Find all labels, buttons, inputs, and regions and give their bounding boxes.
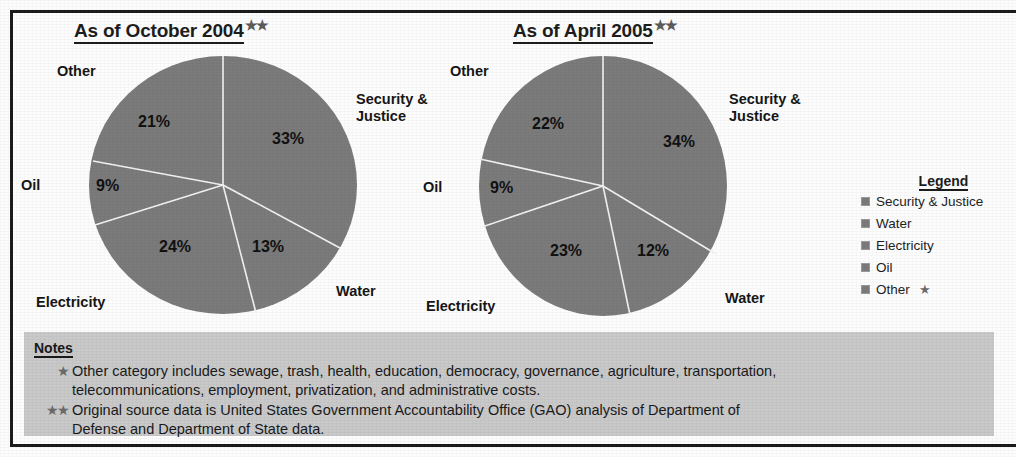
single-star-marker-icon: ★: [34, 362, 68, 381]
pie2-label-security-line2: Justice: [729, 108, 779, 124]
pie2-label-electricity: Electricity: [426, 298, 495, 315]
note-text-line2: telecommunications, employment, privatiz…: [72, 381, 984, 399]
chart-title-text-2: As of April 2005: [513, 20, 653, 44]
legend-label: Oil: [876, 260, 893, 275]
legend-item-water[interactable]: Water: [861, 216, 1016, 231]
pie2-percent-electricity: 23%: [550, 242, 582, 260]
notes-panel: Notes ★ Other category includes sewage, …: [24, 332, 994, 436]
note-text-line2: Defense and Department of State data.: [72, 420, 984, 438]
pie2-percent-other: 22%: [532, 115, 564, 133]
note-text-line1: Original source data is United States Go…: [72, 402, 740, 418]
pie1-label-electricity: Electricity: [36, 294, 105, 311]
legend-title: Legend: [861, 173, 1016, 189]
pie1-percent-water: 13%: [252, 238, 284, 256]
note-text: Original source data is United States Go…: [72, 401, 984, 438]
pie2-percent-oil: 9%: [490, 179, 513, 197]
double-star-marker-icon-note: ★★: [34, 401, 68, 420]
legend-label: Security & Justice: [876, 194, 983, 209]
charts-area: As of October 2004★★: [13, 13, 1016, 318]
pie1-label-other: Other: [57, 63, 96, 80]
double-star-marker-icon-2: ★★: [654, 17, 676, 33]
pie2-label-oil: Oil: [423, 179, 442, 196]
legend-item-security-justice[interactable]: Security & Justice: [861, 194, 1016, 209]
pie1-percent-oil: 9%: [96, 177, 119, 195]
chart-title-text: As of October 2004: [74, 20, 244, 44]
legend: Legend Security & Justice Water Electric…: [861, 173, 1016, 304]
pie2-label-security-line1: Security &: [729, 91, 801, 107]
pie1-label-security-justice: Security &Justice: [356, 91, 446, 124]
pie2-label-other: Other: [450, 63, 489, 80]
chart-title-october-2004: As of October 2004★★: [74, 17, 267, 42]
legend-item-electricity[interactable]: Electricity: [861, 238, 1016, 253]
pie1-label-security-line1: Security &: [356, 91, 428, 107]
legend-label: Other: [876, 282, 910, 297]
legend-swatch-icon: [861, 219, 870, 228]
star-marker-icon: ★: [919, 282, 931, 297]
pie1-label-security-line2: Justice: [356, 108, 406, 124]
legend-label: Electricity: [876, 238, 934, 253]
pie2-label-water: Water: [725, 290, 765, 307]
pie-chart-april-2005: [478, 55, 728, 317]
scanned-figure-page: As of October 2004★★: [0, 0, 1016, 457]
pie1-percent-electricity: 24%: [159, 238, 191, 256]
legend-label: Water: [876, 216, 912, 231]
notes-heading: Notes: [34, 341, 73, 358]
pie-graphic: [88, 55, 358, 315]
pie2-percent-security: 34%: [663, 133, 695, 151]
legend-title-text: Legend: [919, 173, 969, 191]
legend-swatch-icon: [861, 197, 870, 206]
legend-swatch-icon: [861, 241, 870, 250]
note-text-line1: Other category includes sewage, trash, h…: [72, 363, 776, 379]
pie1-percent-security: 33%: [272, 130, 304, 148]
pie-graphic-2: [478, 55, 728, 317]
legend-item-other[interactable]: Other ★: [861, 282, 1016, 297]
legend-item-oil[interactable]: Oil: [861, 260, 1016, 275]
note-item-other-category: ★ Other category includes sewage, trash,…: [34, 362, 984, 399]
chart-title-april-2005: As of April 2005★★: [513, 17, 676, 42]
note-text: Other category includes sewage, trash, h…: [72, 362, 984, 399]
pie1-label-water: Water: [336, 283, 376, 300]
pie2-percent-water: 12%: [637, 242, 669, 260]
legend-swatch-icon: [861, 263, 870, 272]
legend-swatch-icon: [861, 285, 870, 294]
frame-bottom-border: [10, 444, 1016, 447]
pie-chart-october-2004: [88, 55, 358, 315]
pie1-percent-other: 21%: [138, 113, 170, 131]
pie1-label-oil: Oil: [21, 177, 40, 194]
note-item-source: ★★ Original source data is United States…: [34, 401, 984, 438]
pie2-label-security-justice: Security &Justice: [729, 91, 819, 124]
double-star-marker-icon: ★★: [245, 17, 267, 33]
